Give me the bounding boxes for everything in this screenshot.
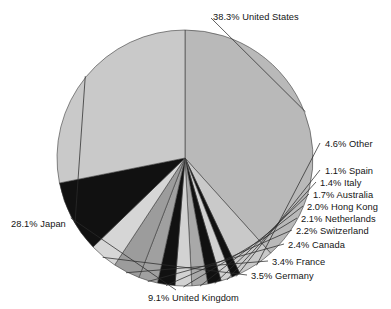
slice-label-spain: 1.1% Spain (325, 166, 373, 176)
slice-label-germany: 3.5% Germany (251, 271, 314, 281)
slice-label-canada: 2.4% Canada (288, 240, 345, 250)
slice-label-japan: 28.1% Japan (11, 219, 66, 229)
slice-label-switzerland: 2.2% Switzerland (296, 226, 369, 236)
slice-label-hong-kong: 2.0% Hong Kong (307, 202, 378, 212)
pie-slices-group (57, 30, 313, 286)
pie-chart-figure: Year End 1997 38.3% United States 4.6% O… (0, 0, 391, 309)
slice-label-united-kingdom: 9.1% United Kingdom (148, 293, 239, 303)
slice-label-netherlands: 2.1% Netherlands (301, 214, 376, 224)
slice-label-united-states: 38.3% United States (213, 12, 299, 22)
slice-label-italy: 1.4% Italy (320, 178, 361, 188)
slice-label-australia: 1.7% Australia (313, 190, 373, 200)
slice-label-other: 4.6% Other (325, 139, 373, 149)
pie-chart-canvas (0, 0, 391, 309)
pie-slice (57, 30, 185, 183)
slice-label-france: 3.4% France (272, 257, 325, 267)
